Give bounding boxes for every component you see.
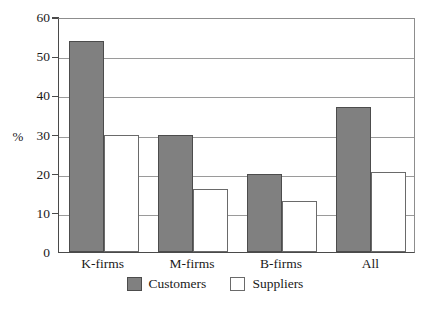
legend-label-customers: Customers [149, 277, 207, 291]
chart-legend: CustomersSuppliers [0, 277, 430, 291]
x-tick-label-k-firms: K-firms [53, 257, 153, 271]
gridline-50 [59, 58, 414, 59]
bar-k-firms-suppliers [104, 135, 139, 253]
legend-swatch-customers [127, 277, 142, 291]
y-tick-label-0: 0 [16, 246, 50, 260]
bar-b-firms-customers [247, 174, 282, 252]
gridline-40 [59, 97, 414, 98]
bar-b-firms-suppliers [282, 201, 317, 252]
y-tick-label-30: 30 [16, 129, 50, 143]
x-tick-label-m-firms: M-firms [142, 257, 242, 271]
y-tick-label-60: 60 [16, 11, 50, 25]
legend-entry-suppliers: Suppliers [230, 277, 303, 291]
y-tick-label-10: 10 [16, 207, 50, 221]
x-tick-label-all: All [320, 257, 420, 271]
legend-entry-customers: Customers [127, 277, 207, 291]
bar-k-firms-customers [69, 41, 104, 253]
bar-m-firms-suppliers [193, 189, 228, 252]
plot-area [58, 18, 415, 253]
bar-m-firms-customers [158, 135, 193, 253]
bar-chart: % 0102030405060 K-firmsM-firmsB-firmsAll… [0, 0, 430, 309]
x-tick-label-b-firms: B-firms [231, 257, 331, 271]
bar-all-customers [336, 107, 371, 252]
bar-all-suppliers [371, 172, 406, 252]
legend-swatch-suppliers [230, 277, 245, 291]
legend-label-suppliers: Suppliers [252, 277, 303, 291]
y-tick-label-50: 50 [16, 50, 50, 64]
y-tick-label-20: 20 [16, 168, 50, 182]
y-tick-label-40: 40 [16, 89, 50, 103]
